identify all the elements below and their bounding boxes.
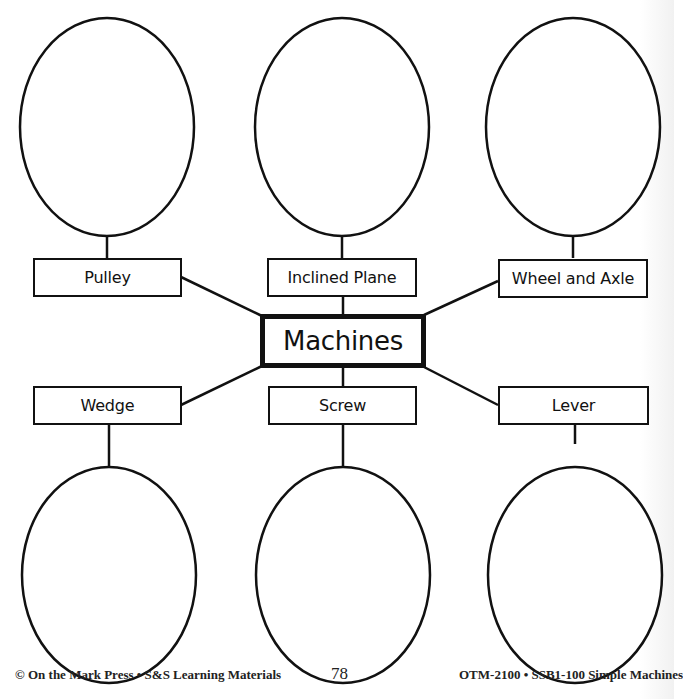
answer-oval-inclined-plane[interactable]: [255, 18, 429, 236]
connector-line: [181, 366, 262, 405]
connector-line: [181, 277, 262, 316]
label-wheel-and-axle: Wheel and Axle: [512, 269, 634, 288]
central-concept-box: Machines: [260, 314, 426, 368]
label-box-screw: Screw: [268, 386, 417, 425]
answer-oval-pulley[interactable]: [20, 18, 194, 236]
connector-line: [424, 367, 498, 405]
central-concept-label: Machines: [283, 326, 403, 356]
label-inclined-plane: Inclined Plane: [288, 268, 397, 287]
label-box-pulley: Pulley: [33, 258, 182, 297]
answer-oval-lever[interactable]: [488, 467, 662, 683]
label-lever: Lever: [552, 396, 595, 415]
label-box-wheel-and-axle: Wheel and Axle: [498, 259, 648, 298]
label-box-wedge: Wedge: [33, 386, 182, 425]
footer-page-number: 78: [331, 664, 348, 684]
label-box-lever: Lever: [498, 386, 649, 425]
answer-oval-screw[interactable]: [256, 467, 430, 683]
label-box-inclined-plane: Inclined Plane: [267, 258, 417, 297]
connector-line: [424, 281, 498, 315]
footer-publisher: © On the Mark Press • S&S Learning Mater…: [15, 667, 281, 683]
label-screw: Screw: [319, 396, 366, 415]
answer-oval-wedge[interactable]: [22, 467, 196, 683]
label-wedge: Wedge: [81, 396, 135, 415]
footer-book-code: OTM-2100 • SSB1-100 Simple Machines: [459, 667, 683, 683]
answer-oval-wheel-and-axle[interactable]: [486, 18, 660, 236]
label-pulley: Pulley: [84, 268, 131, 287]
